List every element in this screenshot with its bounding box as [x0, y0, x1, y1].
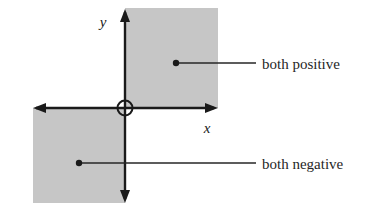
- quadrant-one-shade: [125, 8, 218, 108]
- quadrant-sign-diagram: y x both positive both negative: [0, 0, 379, 209]
- both-positive-dot: [173, 60, 179, 66]
- quadrant-three-shade: [33, 108, 125, 203]
- both-negative-label: both negative: [262, 156, 344, 172]
- both-negative-dot: [76, 160, 82, 166]
- both-positive-label: both positive: [262, 56, 340, 72]
- y-axis-label: y: [98, 14, 107, 30]
- diagram-canvas: y x both positive both negative: [0, 0, 379, 209]
- x-axis-label: x: [203, 120, 211, 136]
